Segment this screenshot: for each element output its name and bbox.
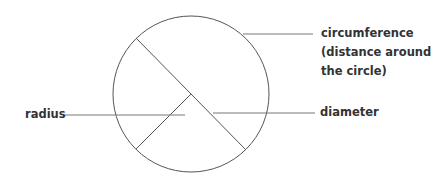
radius-segment — [136, 94, 191, 149]
circumference-label: circumference (distance around the circl… — [321, 24, 431, 81]
diameter-label: diameter — [320, 103, 379, 122]
radius-label: radius — [25, 105, 66, 124]
circumference-label-line2: (distance around — [321, 43, 431, 62]
circumference-label-line3: the circle) — [321, 62, 431, 81]
circumference-label-line1: circumference — [321, 24, 431, 43]
